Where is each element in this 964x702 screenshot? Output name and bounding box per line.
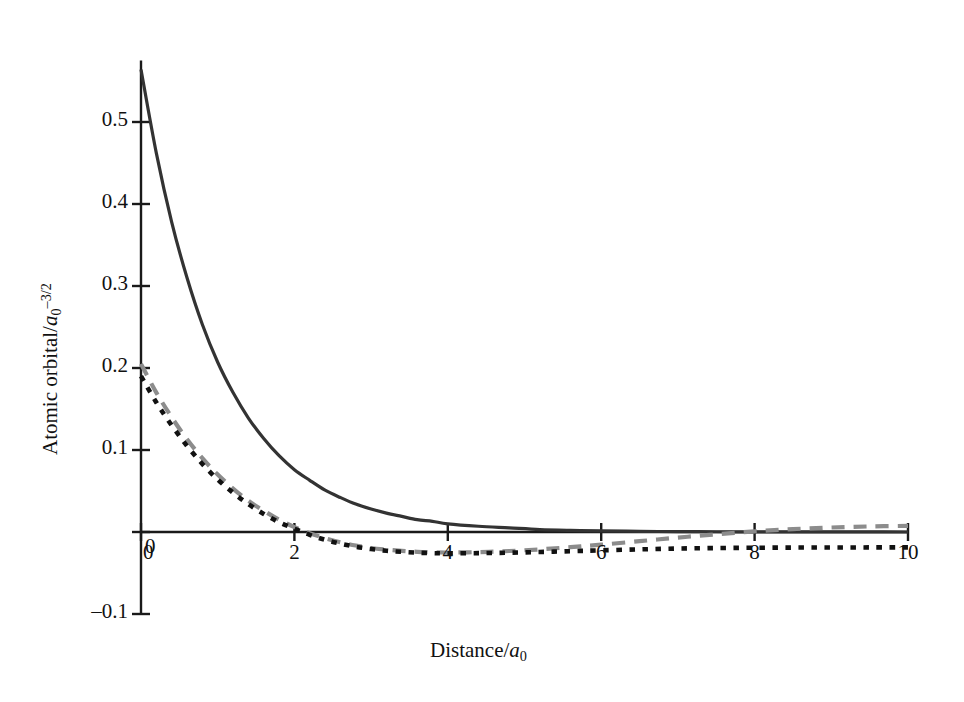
y-axis-title-subscript: 0 — [48, 308, 64, 315]
series-line-2 — [141, 376, 908, 553]
x-axis-title-text: Distance/ — [430, 638, 509, 662]
y-tick-label-0: 0.5 — [102, 107, 128, 132]
x-tick-label-4: 8 — [749, 540, 760, 565]
x-tick-label-1: 2 — [289, 540, 300, 565]
y-tick-label-3: 0.2 — [102, 353, 128, 378]
y-axis-title-symbol: a — [38, 316, 62, 327]
plot-canvas — [0, 0, 964, 702]
y-axis-title: Atomic orbital/a0–3/2 — [38, 283, 65, 455]
y-tick-label-4: 0.1 — [102, 435, 128, 460]
x-tick-label-0: 0 — [143, 540, 154, 565]
y-tick-label-2: 0.3 — [102, 271, 128, 296]
x-tick-label-3: 6 — [596, 540, 607, 565]
plot-group — [132, 61, 908, 615]
x-axis-title: Distance/a0 — [430, 638, 527, 665]
x-axis-title-subscript: 0 — [520, 648, 527, 664]
y-tick-label-6: –0.1 — [91, 599, 128, 624]
series-line-0 — [141, 70, 908, 532]
y-axis-title-exponent: –3/2 — [38, 283, 54, 308]
y-axis-title-text: Atomic orbital/ — [38, 326, 62, 455]
y-tick-label-1: 0.4 — [102, 189, 128, 214]
series-line-1 — [141, 364, 908, 553]
x-tick-label-5: 10 — [898, 540, 919, 565]
x-tick-label-2: 4 — [443, 540, 454, 565]
figure-container: Atomic orbital/a0–3/2 Distance/a0 0.50.4… — [0, 0, 964, 702]
x-axis-title-symbol: a — [509, 638, 520, 662]
